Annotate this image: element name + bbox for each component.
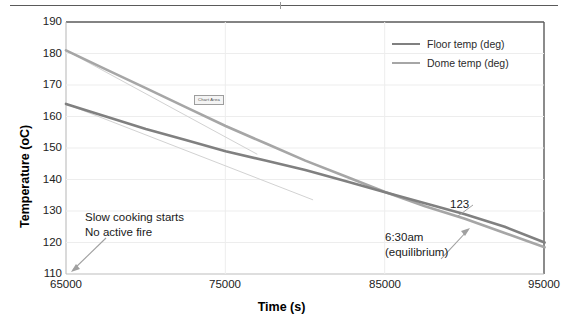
dome-trendline bbox=[66, 50, 257, 154]
x-tick-95000: 95000 bbox=[509, 278, 563, 290]
x-axis-title: Time (s) bbox=[0, 300, 563, 314]
x-tick-65000: 65000 bbox=[31, 278, 101, 290]
legend-label-floor-temp: Floor temp (deg) bbox=[427, 38, 505, 50]
legend-label-dome-temp: Dome temp (deg) bbox=[427, 57, 509, 69]
chart-area-tooltip: Chart Area bbox=[194, 95, 224, 105]
legend-swatch-dome-temp bbox=[392, 62, 420, 64]
legend-swatch-floor-temp bbox=[392, 43, 420, 45]
annotation-slow-cooking: Slow cooking starts No active fire bbox=[85, 210, 184, 240]
y-tick-170: 170 bbox=[22, 78, 62, 90]
y-tick-190: 190 bbox=[22, 15, 62, 27]
y-tick-160: 160 bbox=[22, 110, 62, 122]
legend-item-dome-temp[interactable]: Dome temp (deg) bbox=[392, 53, 509, 72]
slow-cooking-arrow bbox=[71, 238, 106, 272]
annotation-equilibrium: 6:30am (equilibrium) bbox=[385, 230, 448, 260]
chart-container: 190 180 170 160 150 140 130 120 110 6500… bbox=[0, 0, 563, 327]
x-tick-75000: 75000 bbox=[190, 278, 260, 290]
annotation-slow-cooking-line1: Slow cooking starts bbox=[85, 210, 184, 225]
chart-legend: Floor temp (deg) Dome temp (deg) bbox=[392, 34, 509, 72]
annotation-crossing-value: 123 bbox=[450, 197, 469, 212]
floor-trendline bbox=[66, 104, 313, 200]
y-axis-title: Temperature (oC) bbox=[18, 125, 32, 228]
annotation-slow-cooking-line2: No active fire bbox=[85, 225, 184, 240]
y-tick-180: 180 bbox=[22, 47, 62, 59]
annotation-equilibrium-line2: (equilibrium) bbox=[385, 245, 448, 260]
legend-item-floor-temp[interactable]: Floor temp (deg) bbox=[392, 34, 509, 53]
x-tick-85000: 85000 bbox=[350, 278, 420, 290]
annotation-equilibrium-line1: 6:30am bbox=[385, 230, 448, 245]
y-tick-120: 120 bbox=[22, 236, 62, 248]
